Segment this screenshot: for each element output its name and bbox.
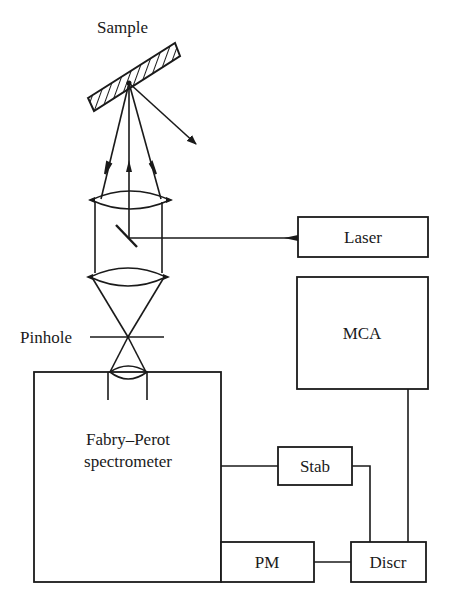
fabry-perot-box — [34, 372, 221, 582]
fabry-perot-label-line2: spectrometer — [84, 452, 172, 471]
pinhole-cone — [93, 279, 163, 372]
optical-setup-diagram: Sample Pi — [0, 0, 451, 609]
reflected-ray — [129, 83, 196, 144]
incident-rays — [101, 83, 161, 238]
discr-label: Discr — [370, 553, 407, 572]
sample-label: Sample — [97, 18, 148, 37]
stab-label: Stab — [300, 457, 330, 476]
pm-label: PM — [255, 553, 280, 572]
fabry-perot-label-line1: Fabry–Perot — [86, 430, 170, 449]
mca-label: MCA — [343, 324, 382, 343]
mirror — [116, 225, 137, 247]
lower-lens — [86, 268, 170, 286]
laser-beam-arrowhead-icon — [284, 235, 298, 241]
pinhole-label: Pinhole — [20, 328, 72, 347]
laser-label: Laser — [344, 228, 382, 247]
